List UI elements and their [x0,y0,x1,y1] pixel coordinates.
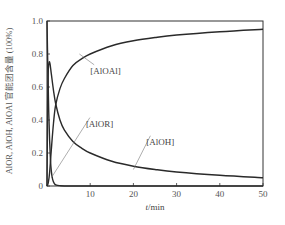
y-tick-label: 0.4 [32,115,44,125]
y-tick-label: 1.0 [32,16,44,26]
x-tick-label: 10 [86,189,96,199]
annotation-label: [AlOAl] [90,66,121,76]
y-axis-label: AlOR, AlOH, AlOAl 官能团含量 (100%) [2,16,14,186]
y-tick-label: 0 [39,181,44,191]
x-tick-label: 40 [215,189,225,199]
annotation-label: [AlOH] [146,137,174,147]
annotation-label: [AlOR] [86,119,114,129]
y-tick-label: 0.8 [32,49,44,59]
y-tick-label: 0.6 [32,82,44,92]
x-tick-label: 50 [259,189,269,199]
series-aloal [47,29,263,186]
x-axis-label: t/min [145,202,165,212]
series-aloh [47,62,263,186]
plot-frame [47,21,263,186]
x-tick-label: 20 [129,189,139,199]
series-lines [47,21,263,186]
chart-canvas: 1020304050 00.20.40.60.81.0 [AlOAl][AlOR… [0,0,285,225]
annotations: [AlOAl][AlOR][AlOH] [51,54,174,178]
y-tick-label: 0.2 [32,148,43,158]
series-alor [47,21,263,186]
x-tick-label: 30 [172,189,182,199]
